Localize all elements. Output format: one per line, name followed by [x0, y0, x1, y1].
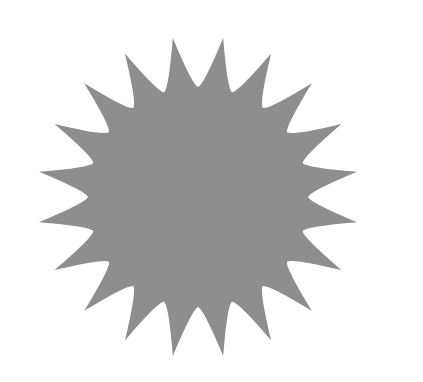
- starburst-shape: [0, 0, 423, 382]
